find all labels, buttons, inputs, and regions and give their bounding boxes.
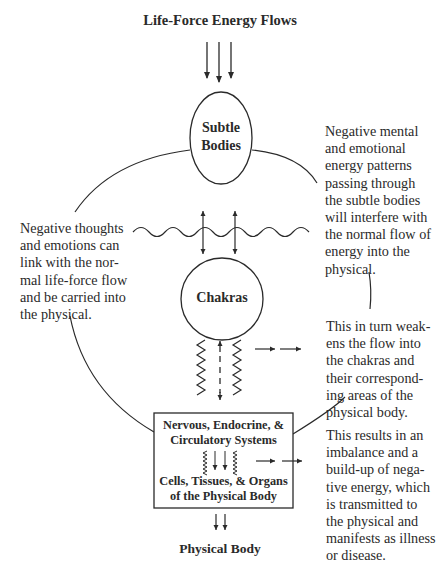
diagram-title: Life-Force Energy Flows — [120, 12, 320, 29]
physical-outflow-arrows — [216, 514, 225, 530]
subtle-bodies-label: Subtle Bodies — [190, 119, 252, 155]
interference-wave — [133, 228, 309, 237]
annotation-imbalance: This results in an imbalance and a build… — [326, 427, 446, 565]
zigzag-lines — [197, 340, 241, 395]
systems-label: Nervous, Endocrine, & Circulatory System… — [154, 418, 293, 448]
chakras-label: Chakras — [182, 290, 262, 306]
physical-body-label: Physical Body — [160, 541, 280, 557]
annotation-negative-thoughts: Negative thoughts and emotions can link … — [20, 220, 145, 323]
annotation-chakras-weakening: This in turn weak- ens the flow into the… — [326, 318, 446, 421]
cells-label: Cells, Tissues, & Organs of the Physical… — [154, 474, 293, 504]
bidirectional-arrows — [203, 211, 235, 254]
annotation-subtle-bodies: Negative mental and emotional energy pat… — [325, 123, 446, 278]
incoming-flow-arrows — [207, 42, 231, 82]
